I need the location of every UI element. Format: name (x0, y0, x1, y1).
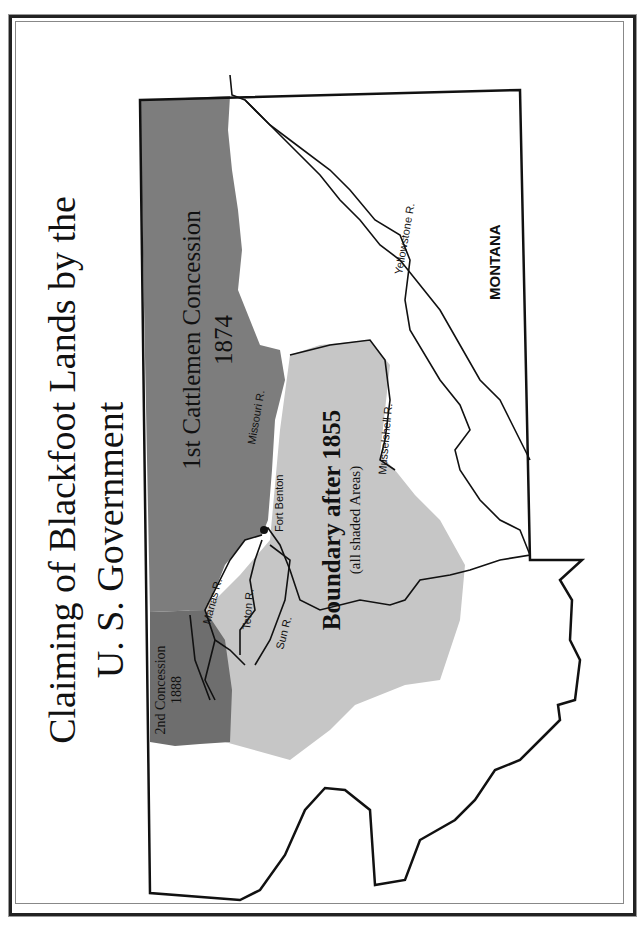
page-title-line1: Claiming of Blackfoot Lands by the (41, 196, 83, 744)
boundary-1855-sublabel: (all shaded Areas) (347, 466, 364, 574)
first-concession-label: 1st Cattlemen Concession (178, 210, 205, 470)
second-concession-year: 1888 (169, 676, 184, 704)
boundary-1855-label: Boundary after 1855 (318, 410, 345, 630)
fort-benton-marker (260, 526, 268, 534)
yellowstone-river-label: Yellowstone R. (392, 202, 416, 275)
page-title-group: Claiming of Blackfoot Lands by the U. S.… (41, 196, 131, 744)
page-title-line2: U. S. Government (89, 401, 131, 678)
fort-benton-label: Fort Benton (273, 475, 285, 532)
blackfoot-lands-map: Claiming of Blackfoot Lands by the U. S.… (0, 0, 642, 943)
second-concession-label: 2nd Concession (153, 645, 168, 734)
first-concession-year: 1874 (210, 315, 237, 366)
montana-label: MONTANA (486, 224, 503, 300)
